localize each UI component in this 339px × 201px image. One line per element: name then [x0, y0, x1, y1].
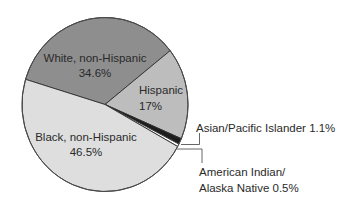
label-hispanic-name: Hispanic: [139, 84, 183, 96]
pie-slices: [22, 17, 188, 191]
label-aian-line2: Alaska Native 0.5%: [199, 182, 299, 194]
label-black-name: Black, non-Hispanic: [35, 131, 137, 143]
leader-line-aian: [177, 149, 202, 163]
label-hispanic-value: 17%: [139, 100, 162, 112]
label-white-value: 34.6%: [79, 67, 112, 79]
label-asian: Asian/Pacific Islander 1.1%: [196, 122, 335, 134]
label-black-value: 46.5%: [70, 146, 103, 158]
leader-line-asian: [181, 133, 200, 145]
pie-chart: White, non-Hispanic 34.6% Hispanic 17% B…: [0, 0, 339, 201]
label-aian-line1: American Indian/: [199, 166, 286, 178]
label-white-name: White, non-Hispanic: [44, 52, 147, 64]
